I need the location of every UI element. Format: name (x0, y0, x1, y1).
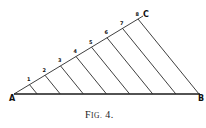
parallel-line-6 (107, 38, 153, 94)
division-label-6: 6 (105, 29, 109, 35)
parallel-line-5 (92, 47, 130, 94)
division-label-1: 1 (27, 76, 31, 82)
parallel-line-1 (30, 85, 38, 94)
caption-smallcaps: IG. (91, 111, 102, 120)
division-label-3: 3 (58, 57, 62, 63)
point-a-label: A (9, 94, 16, 103)
parallel-line-7 (123, 28, 176, 94)
division-labels: 12345678 (27, 11, 140, 83)
point-c-label: C (143, 10, 149, 19)
division-label-4: 4 (74, 48, 78, 54)
point-b-label: B (198, 94, 204, 103)
line-ac (14, 16, 143, 94)
parallel-line-3 (61, 66, 84, 94)
parallel-line-4 (76, 57, 107, 95)
parallel-line-2 (45, 75, 60, 94)
figure-diagram: 12345678 A B C FIG.4. (0, 0, 206, 128)
division-label-5: 5 (89, 39, 93, 45)
parallel-lines (30, 19, 200, 94)
division-label-2: 2 (43, 67, 47, 73)
division-label-8: 8 (136, 11, 140, 17)
parallel-line-8 (138, 19, 199, 94)
division-label-7: 7 (120, 20, 124, 26)
figure-caption: FIG.4. (85, 109, 114, 120)
caption-number: 4. (105, 109, 114, 120)
